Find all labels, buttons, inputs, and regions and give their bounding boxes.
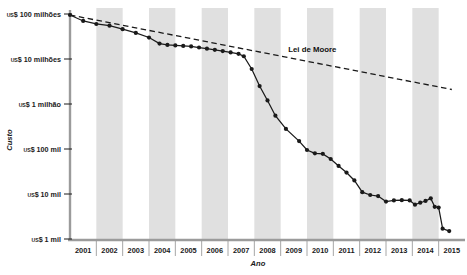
data-point-12 bbox=[197, 45, 201, 49]
year-band-2008 bbox=[254, 8, 280, 240]
data-point-35 bbox=[384, 199, 388, 203]
data-point-10 bbox=[181, 44, 185, 48]
data-point-1 bbox=[81, 19, 85, 23]
data-point-32 bbox=[360, 190, 364, 194]
genome-cost-chart: US$ 100 milhõesUS$ 10 milhõesUS$ 1 milhã… bbox=[0, 0, 467, 275]
y-tick-label-2: US$ 1 milhão bbox=[19, 100, 62, 109]
data-point-11 bbox=[189, 44, 193, 48]
data-point-9 bbox=[173, 43, 177, 47]
data-point-19 bbox=[250, 67, 254, 71]
data-point-25 bbox=[305, 148, 309, 152]
data-point-0 bbox=[68, 13, 72, 17]
chart-canvas: US$ 100 milhõesUS$ 10 milhõesUS$ 1 milhã… bbox=[0, 0, 467, 275]
data-point-40 bbox=[418, 201, 422, 205]
data-point-28 bbox=[329, 157, 333, 161]
data-point-23 bbox=[284, 127, 288, 131]
x-tick-label-2004: 2004 bbox=[154, 246, 171, 255]
x-axis-title: Ano bbox=[250, 259, 266, 268]
y-tick-label-3: US$ 100 mil bbox=[23, 145, 61, 154]
data-point-24 bbox=[297, 139, 301, 143]
data-point-26 bbox=[313, 151, 317, 155]
data-point-42 bbox=[429, 196, 433, 200]
data-point-8 bbox=[165, 43, 169, 47]
x-tick-label-2009: 2009 bbox=[286, 246, 302, 255]
data-point-36 bbox=[392, 198, 396, 202]
moore-law-annotation-label: Lei de Moore bbox=[288, 45, 337, 54]
x-tick-label-2011: 2011 bbox=[338, 246, 354, 255]
x-tick-label-2008: 2008 bbox=[259, 246, 275, 255]
year-band-2002 bbox=[96, 8, 122, 240]
year-band-2004 bbox=[149, 8, 175, 240]
y-axis-title: Custo bbox=[5, 129, 14, 151]
shaded-year-bands bbox=[96, 8, 438, 240]
data-point-20 bbox=[258, 84, 262, 88]
y-tick-label-1: US$ 10 milhões bbox=[11, 55, 61, 64]
data-point-45 bbox=[441, 227, 445, 231]
data-point-37 bbox=[400, 198, 404, 202]
x-tick-label-2013: 2013 bbox=[391, 246, 407, 255]
data-point-31 bbox=[352, 178, 356, 182]
moore-law-annotation: Lei de Moore bbox=[288, 45, 337, 54]
data-point-4 bbox=[121, 27, 125, 31]
data-point-46 bbox=[447, 229, 451, 233]
x-tick-label-2002: 2002 bbox=[101, 246, 117, 255]
data-point-27 bbox=[321, 152, 325, 156]
x-tick-label-2012: 2012 bbox=[365, 246, 381, 255]
x-tick-label-2015: 2015 bbox=[444, 246, 460, 255]
data-point-41 bbox=[423, 199, 427, 203]
x-tick-label-2010: 2010 bbox=[312, 246, 328, 255]
data-point-43 bbox=[433, 205, 437, 209]
x-axis-tick-labels: 2001200220032004200520062007200820092010… bbox=[75, 246, 460, 255]
data-point-17 bbox=[236, 52, 240, 56]
data-point-2 bbox=[94, 22, 98, 26]
x-tick-label-2003: 2003 bbox=[128, 246, 144, 255]
data-point-18 bbox=[242, 54, 246, 58]
data-point-7 bbox=[157, 41, 161, 45]
data-point-38 bbox=[408, 198, 412, 202]
y-tick-label-4: US$ 10 mil bbox=[27, 190, 61, 199]
data-point-6 bbox=[147, 35, 151, 39]
x-tick-label-2001: 2001 bbox=[75, 246, 91, 255]
x-tick-label-2014: 2014 bbox=[417, 246, 434, 255]
data-point-30 bbox=[344, 170, 348, 174]
y-tick-label-5: US$ 1 mil bbox=[31, 235, 61, 244]
data-point-16 bbox=[229, 50, 233, 54]
data-point-29 bbox=[337, 164, 341, 168]
year-band-2010 bbox=[307, 8, 333, 240]
data-point-3 bbox=[107, 24, 111, 28]
year-band-2012 bbox=[360, 8, 386, 240]
data-point-33 bbox=[368, 193, 372, 197]
data-point-15 bbox=[221, 49, 225, 53]
y-tick-label-0: US$ 100 milhões bbox=[7, 10, 61, 19]
x-tick-label-2005: 2005 bbox=[180, 246, 196, 255]
data-point-44 bbox=[437, 205, 441, 209]
data-point-14 bbox=[213, 48, 217, 52]
data-point-5 bbox=[134, 31, 138, 35]
data-point-39 bbox=[413, 203, 417, 207]
x-tick-label-2007: 2007 bbox=[233, 246, 249, 255]
x-tick-label-2006: 2006 bbox=[207, 246, 223, 255]
data-point-22 bbox=[273, 114, 277, 118]
data-point-13 bbox=[205, 47, 209, 51]
data-point-34 bbox=[376, 194, 380, 198]
data-point-21 bbox=[265, 98, 269, 102]
y-axis-tick-labels: US$ 100 milhõesUS$ 10 milhõesUS$ 1 milhã… bbox=[7, 10, 62, 244]
